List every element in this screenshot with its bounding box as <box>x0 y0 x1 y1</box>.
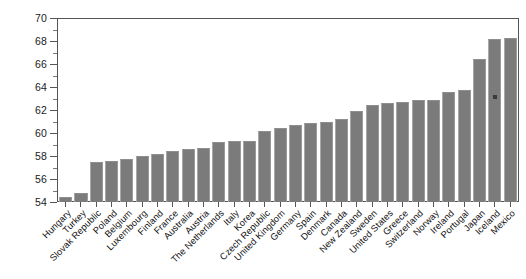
bar <box>350 111 363 202</box>
bar-slot <box>242 18 257 202</box>
bar-slot <box>288 18 303 202</box>
y-axis-tick-label: 62 <box>35 104 47 116</box>
bar-marker-dot <box>493 95 497 99</box>
bar-slot <box>349 18 364 202</box>
bar-slot <box>135 18 150 202</box>
bar-slot <box>196 18 211 202</box>
bar <box>182 149 195 202</box>
bar-chart: 545658606264666870 HungaryTurkeySlovak R… <box>0 0 526 279</box>
bar <box>105 161 118 202</box>
bar <box>136 156 149 202</box>
bar <box>504 38 517 202</box>
y-tick-major <box>50 110 57 111</box>
y-tick-major <box>50 87 57 88</box>
bar-slot <box>380 18 395 202</box>
bar <box>396 102 409 202</box>
bar <box>243 141 256 202</box>
bar <box>335 119 348 202</box>
bar <box>304 123 317 202</box>
bar <box>289 125 302 202</box>
bar <box>74 193 87 202</box>
bar <box>90 162 103 202</box>
y-tick-major <box>50 156 57 157</box>
bar-slot <box>411 18 426 202</box>
y-axis-tick-label: 66 <box>35 58 47 70</box>
bar-slot <box>73 18 88 202</box>
bar-slot <box>181 18 196 202</box>
y-axis-tick-label: 70 <box>35 12 47 24</box>
bar-slot <box>503 18 518 202</box>
bar-slot <box>395 18 410 202</box>
bar-slot <box>227 18 242 202</box>
bar <box>258 131 271 202</box>
bar-slot <box>472 18 487 202</box>
bar-slot <box>273 18 288 202</box>
bar <box>166 151 179 202</box>
bar <box>412 100 425 202</box>
x-axis-labels: HungaryTurkeySlovak RepublicPolandBelgiu… <box>57 207 519 279</box>
y-tick-major <box>50 64 57 65</box>
x-label-slot: Mexico <box>503 207 518 279</box>
bar-slot <box>104 18 119 202</box>
y-axis-tick-label: 64 <box>35 81 47 93</box>
bar <box>212 142 225 202</box>
bar <box>274 128 287 202</box>
bar <box>228 141 241 202</box>
y-axis-tick-label: 68 <box>35 35 47 47</box>
bar <box>366 105 379 202</box>
y-tick-major <box>50 202 57 203</box>
y-axis-tick-label: 56 <box>35 173 47 185</box>
y-axis-tick-label: 58 <box>35 150 47 162</box>
y-axis-tick-label: 60 <box>35 127 47 139</box>
bar-slot <box>58 18 73 202</box>
bar <box>442 92 455 202</box>
bars-container <box>57 18 519 202</box>
bar-slot <box>257 18 272 202</box>
bar <box>427 100 440 202</box>
bar-slot <box>487 18 502 202</box>
bar <box>197 148 210 202</box>
bar-slot <box>150 18 165 202</box>
bar <box>381 103 394 202</box>
bar-slot <box>89 18 104 202</box>
y-tick-major <box>50 179 57 180</box>
bar-slot <box>441 18 456 202</box>
bar-slot <box>457 18 472 202</box>
y-tick-major <box>50 18 57 19</box>
y-tick-major <box>50 133 57 134</box>
bar <box>488 39 501 202</box>
bar <box>458 90 471 202</box>
bar-slot <box>365 18 380 202</box>
bar <box>320 122 333 203</box>
y-axis-tick-label: 54 <box>35 196 47 208</box>
bar-slot <box>334 18 349 202</box>
bar <box>120 159 133 202</box>
bar-slot <box>165 18 180 202</box>
bar <box>473 59 486 202</box>
bar-slot <box>303 18 318 202</box>
bar-slot <box>119 18 134 202</box>
bar-slot <box>211 18 226 202</box>
bar <box>151 154 164 202</box>
bar-slot <box>426 18 441 202</box>
bar-slot <box>319 18 334 202</box>
y-tick-major <box>50 41 57 42</box>
